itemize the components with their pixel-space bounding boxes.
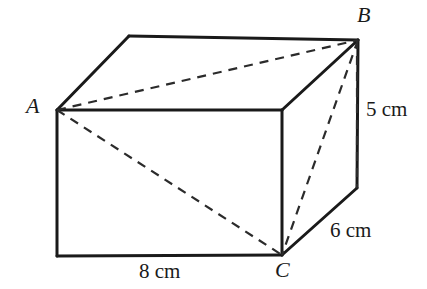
dashed-lines — [57, 40, 358, 255]
edge-front-bottom — [57, 255, 282, 256]
cuboid-drawing — [0, 0, 427, 289]
vertex-label-b: B — [357, 4, 370, 26]
dimension-label-height: 5 cm — [366, 99, 407, 120]
dimension-label-depth: 6 cm — [330, 220, 371, 241]
cuboid-figure: A B C 8 cm 5 cm 6 cm — [0, 0, 427, 289]
solid-edges — [57, 36, 358, 256]
edge-top-back — [129, 36, 358, 40]
diagonal-A-to-C — [57, 110, 282, 255]
dimension-label-width: 8 cm — [139, 261, 180, 282]
vertex-label-c: C — [275, 259, 290, 281]
vertex-label-a: A — [26, 95, 39, 117]
edge-top-left-receding — [57, 36, 129, 110]
diagonal-A-to-B — [57, 40, 358, 110]
